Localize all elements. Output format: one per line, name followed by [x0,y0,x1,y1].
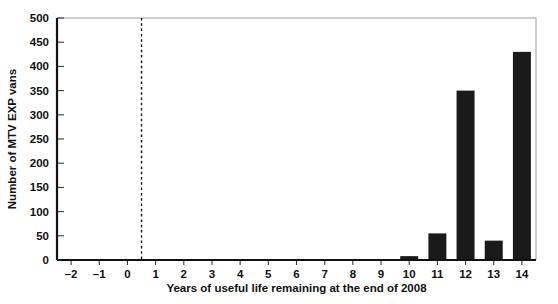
bar [513,52,531,260]
x-tick-label: 2 [181,268,187,280]
x-tick-label: 8 [350,268,357,280]
x-tick-label: 7 [321,268,327,280]
y-tick-label: 300 [30,109,49,121]
y-tick-label: 100 [30,206,49,218]
bar-series [400,52,531,260]
x-tick-label: –2 [65,268,78,280]
bar-chart: 050100150200250300350400450500 –2–101234… [0,0,558,304]
bar [485,241,503,260]
x-tick-label: 0 [124,268,130,280]
x-tick-label: 10 [403,268,416,280]
y-tick-label: 0 [43,254,49,266]
x-tick-label: 14 [516,268,529,280]
y-axis-title: Number of MTV EXP vans [6,69,18,209]
y-tick-label: 150 [30,181,49,193]
x-tick-label: 3 [209,268,215,280]
x-tick-label: 5 [265,268,272,280]
bar [457,91,475,260]
x-tick-label: 6 [293,268,299,280]
x-axis-title: Years of useful life remaining at the en… [166,282,427,294]
x-axis-ticks: –2–101234567891011121314 [65,260,529,280]
x-tick-label: –1 [93,268,106,280]
chart-container: 050100150200250300350400450500 –2–101234… [0,0,558,304]
y-tick-label: 350 [30,85,49,97]
y-tick-label: 250 [30,133,49,145]
x-tick-label: 11 [431,268,444,280]
x-tick-label: 9 [378,268,384,280]
y-tick-label: 500 [30,12,49,24]
x-tick-label: 1 [152,268,159,280]
x-tick-label: 12 [459,268,472,280]
y-tick-label: 400 [30,60,49,72]
bar [428,233,446,260]
y-tick-label: 200 [30,157,49,169]
y-axis-ticks: 050100150200250300350400450500 [30,12,64,266]
y-tick-label: 450 [30,36,49,48]
y-tick-label: 50 [36,230,49,242]
x-tick-label: 4 [237,268,244,280]
x-tick-label: 13 [487,268,500,280]
